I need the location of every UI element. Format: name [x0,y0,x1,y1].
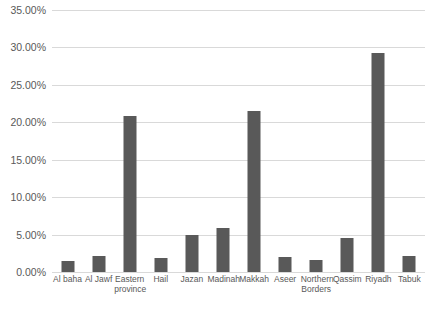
bar[interactable] [372,53,385,272]
chart-bars [52,10,425,272]
bar-slot [207,10,238,272]
x-axis-tick-label: Eastern province [114,274,145,294]
x-axis-tick-label: Hail [145,274,176,284]
bar[interactable] [403,256,416,272]
x-axis: Al bahaAl JawfEastern provinceHailJazanM… [52,274,425,310]
x-axis-tick-label: Jazan [176,274,207,284]
bar-slot [176,10,207,272]
bar[interactable] [341,238,354,272]
bar-chart: 35.00%30.00%25.00%20.00%15.00%10.00%5.00… [0,0,433,312]
bar[interactable] [279,257,292,272]
x-axis-tick-label: Riyadh [363,274,394,284]
x-axis-tick-label: Aseer [270,274,301,284]
bar-slot [363,10,394,272]
y-axis-tick-label: 30.00% [0,42,46,53]
y-axis-tick-label: 5.00% [0,229,46,240]
bar[interactable] [154,258,167,272]
bar-slot [239,10,270,272]
bar-slot [145,10,176,272]
bar[interactable] [123,116,136,272]
bar[interactable] [310,260,323,272]
bar[interactable] [185,235,198,272]
bar[interactable] [61,261,74,272]
x-axis-tick-label: Makkah [239,274,270,284]
bar-slot [332,10,363,272]
x-axis-tick-label: Northern Borders [301,274,332,294]
bar[interactable] [92,256,105,272]
y-axis-tick-label: 0.00% [0,267,46,278]
x-axis-tick-label: Qassim [332,274,363,284]
bar-slot [114,10,145,272]
y-axis-tick-label: 35.00% [0,5,46,16]
x-axis-tick-label: Madinah [207,274,238,284]
bar[interactable] [216,228,229,272]
x-axis-tick-label: Al Jawf [83,274,114,284]
y-axis-tick-label: 20.00% [0,117,46,128]
bar-slot [270,10,301,272]
gridline [52,272,425,273]
bar-slot [301,10,332,272]
bar-slot [52,10,83,272]
x-axis-tick-label: Tabuk [394,274,425,284]
bar[interactable] [248,111,261,272]
y-axis-tick-label: 15.00% [0,154,46,165]
x-axis-tick-label: Al baha [52,274,83,284]
bar-slot [394,10,425,272]
y-axis-tick-label: 10.00% [0,192,46,203]
y-axis-tick-label: 25.00% [0,80,46,91]
bar-slot [83,10,114,272]
y-axis: 35.00%30.00%25.00%20.00%15.00%10.00%5.00… [0,10,46,272]
